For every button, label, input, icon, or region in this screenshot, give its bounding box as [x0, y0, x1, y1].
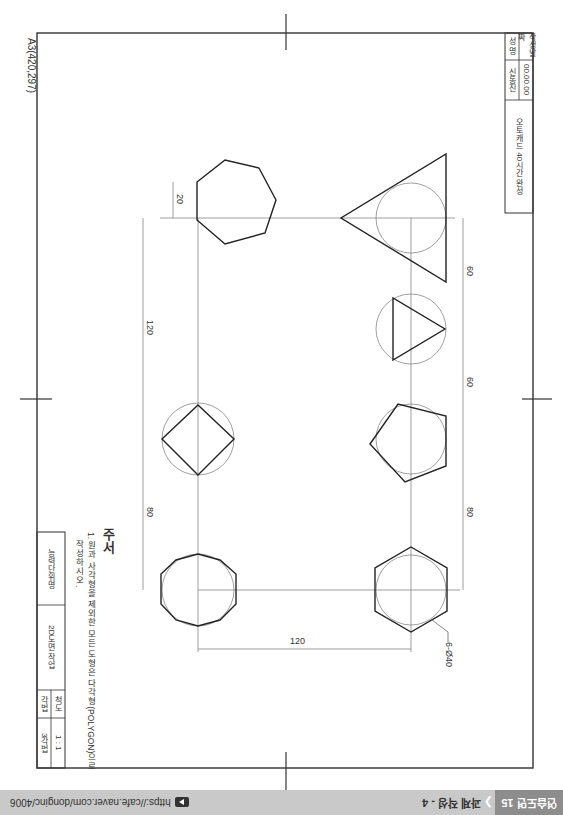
date-value: 00.00.00 [519, 60, 533, 100]
chevron-right-icon: ❯ [484, 790, 493, 815]
dim-bottom-span: 120 [290, 636, 305, 646]
footer-title: 과제 작성 - 4 [422, 790, 481, 815]
dim-right-upper: 60 [465, 266, 475, 276]
footer-link[interactable]: https://cafe.naver.com/donginc/4006 [10, 790, 189, 815]
dim-right-middle: 60 [465, 377, 475, 387]
leader-callout: 6-Ø40 [444, 642, 454, 667]
play-icon [175, 797, 189, 807]
name-label: 성 명 [505, 33, 519, 60]
projection-value: 3각법 [37, 718, 51, 768]
frame-border [37, 33, 533, 768]
heptagon [197, 160, 276, 244]
footer-bar: 연습도면 15 ❯ 과제 작성 - 4 https://cafe.naver.c… [0, 790, 563, 815]
paper-size-label: A3(420,297) [26, 38, 37, 93]
drawing-title: 오토캐드 40시간 완성 [505, 100, 533, 213]
pentagon [370, 404, 446, 482]
dim-left-lower: 80 [145, 507, 155, 517]
scale-value: 1 : 1 [51, 718, 65, 768]
projection-label: 각법 [37, 690, 51, 718]
footer-link-text[interactable]: https://cafe.naver.com/donginc/4006 [10, 797, 171, 808]
triangle-inscribed [393, 298, 445, 360]
drawing-sheet: A3(420,297) 작성날짜 00.00.00 성 명 신동진 오토캐드 4… [0, 0, 563, 790]
dim-left-span: 120 [145, 320, 155, 335]
name-value: 신동진 [505, 60, 519, 100]
notes-line-2: 작성하시오. [73, 540, 85, 587]
dim-heptagon-offset: 20 [175, 194, 185, 204]
unit-name: 능력단위명 [37, 532, 65, 605]
notes-line-1: 1. 원과 사각형을 제외한 모든 도형은 다각형(POLYGON)으로 [85, 532, 97, 771]
date-label: 작성날짜 [519, 33, 533, 60]
notes-heading: 주서 [98, 528, 117, 554]
scale-label: 척도 [51, 690, 65, 718]
footer-brand: 연습도면 15 [495, 790, 563, 815]
dim-right-lower: 80 [465, 507, 475, 517]
work-name: 2D도면 작업 [37, 605, 65, 690]
